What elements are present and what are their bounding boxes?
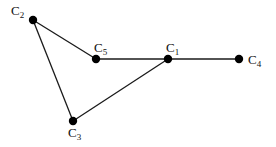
label-subscript: 5 [103,47,108,57]
edge-c2-c5 [33,20,96,59]
node-c5 [92,55,100,63]
label-letter: C [248,52,257,67]
node-label-c2: C2 [11,3,24,20]
nodes-group [29,16,243,125]
node-label-c3: C3 [68,125,82,142]
labels-group: C1C2C3C4C5 [11,3,262,142]
label-subscript: 3 [77,132,82,142]
label-subscript: 1 [175,47,180,57]
edges-group [33,20,239,121]
node-c4 [235,55,243,63]
graph-diagram: C1C2C3C4C5 [0,0,276,147]
node-label-c5: C5 [94,40,108,57]
label-subscript: 4 [257,59,262,69]
label-subscript: 2 [20,10,25,20]
node-label-c1: C1 [166,40,179,57]
node-label-c4: C4 [248,52,262,69]
edge-c3-c1 [73,59,168,121]
label-letter: C [166,40,175,55]
node-c2 [29,16,37,24]
label-letter: C [11,3,20,18]
label-letter: C [68,125,77,140]
node-c3 [69,117,77,125]
node-c1 [164,55,172,63]
edge-c2-c3 [33,20,73,121]
label-letter: C [94,40,103,55]
